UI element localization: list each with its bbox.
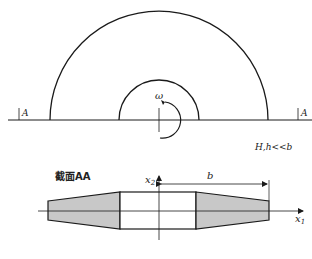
left-taper-region [48,192,120,229]
x2-label: x2 [145,174,156,187]
section-title: 截面AA [55,170,91,182]
outer-semicircle [50,11,268,120]
omega-label: ω [155,90,163,101]
dimension-b-label: b [207,170,213,181]
right-taper-region [196,192,269,229]
disk-diagram: ω A A 截面AA H,h<<b x1 x2 b [0,0,312,259]
section-label-left: A [21,108,29,118]
x1-label: x1 [295,213,305,226]
condition-note: H,h<<b [254,142,293,152]
top-view: ω A A [8,11,312,138]
section-label-right: A [300,108,308,118]
section-view: 截面AA H,h<<b x1 x2 b [38,142,305,240]
hub-region [120,192,196,229]
